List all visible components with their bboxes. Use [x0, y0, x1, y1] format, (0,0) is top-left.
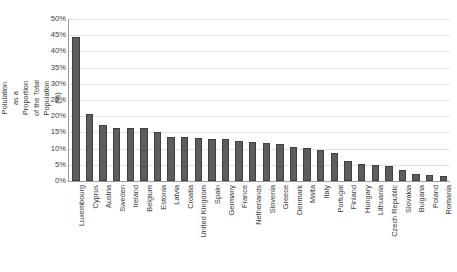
bar-slot [382, 19, 396, 181]
y-axis-tick-label: 25% [51, 96, 66, 104]
bar[interactable] [167, 137, 174, 181]
bar[interactable] [222, 139, 229, 181]
bar[interactable] [344, 161, 351, 181]
bar-slot [219, 19, 233, 181]
bar[interactable] [249, 142, 256, 181]
bar-slot [273, 19, 287, 181]
bar[interactable] [276, 144, 283, 181]
x-axis-tick-slot: Slovakia [395, 183, 409, 271]
bar-slot [178, 19, 192, 181]
bar[interactable] [181, 137, 188, 181]
bar[interactable] [358, 164, 365, 181]
bar[interactable] [263, 143, 270, 181]
bar-slot [368, 19, 382, 181]
x-axis-tick-slot: Estonia [150, 183, 164, 271]
x-axis-tick-slot: Finland [340, 183, 354, 271]
y-axis-tick-label: 45% [51, 31, 66, 39]
bar-slot [423, 19, 437, 181]
bar-slot [123, 19, 137, 181]
x-axis-tick-slot: Ireland [122, 183, 136, 271]
bar-slot [300, 19, 314, 181]
bar[interactable] [99, 125, 106, 181]
x-axis-tick-slot: Austria [95, 183, 109, 271]
y-axis-tick-label: 15% [51, 128, 66, 136]
bar[interactable] [385, 166, 392, 181]
bar-slot [246, 19, 260, 181]
bar-slot [205, 19, 219, 181]
bar[interactable] [140, 128, 147, 181]
x-axis-tick-slot: Netherlands [245, 183, 259, 271]
x-axis-tick-slot: Italy [313, 183, 327, 271]
y-axis-tick-label: 5% [55, 161, 66, 169]
x-axis-tick-slot: Portugal [327, 183, 341, 271]
y-axis-title: Foreign-Born Polulation as a Proportion … [0, 0, 42, 195]
x-axis-tick-slot: Hungary [354, 183, 368, 271]
bar[interactable] [440, 176, 447, 181]
bar[interactable] [208, 139, 215, 181]
x-axis-tick-slot: Croatia [177, 183, 191, 271]
bar[interactable] [331, 153, 338, 182]
x-axis-tick-slot: Spain [204, 183, 218, 271]
bar-slot [96, 19, 110, 181]
bar-slot [83, 19, 97, 181]
bar[interactable] [303, 148, 310, 181]
bar-slot [69, 19, 83, 181]
bars-layer [69, 19, 450, 181]
y-axis-tick-label: 50% [51, 15, 66, 23]
bar-slot [287, 19, 301, 181]
bar-slot [137, 19, 151, 181]
bar[interactable] [235, 141, 242, 181]
bar[interactable] [372, 165, 379, 181]
bar[interactable] [127, 128, 134, 181]
y-axis-tick-label: 20% [51, 112, 66, 120]
bar[interactable] [412, 174, 419, 181]
x-axis-tick-slot: France [231, 183, 245, 271]
x-axis-tick-slot: Malta [299, 183, 313, 271]
y-axis-tick-label: 0% [55, 177, 66, 185]
y-axis-tick-label: 35% [51, 64, 66, 72]
x-axis-tick-slot: Cyprus [82, 183, 96, 271]
bar[interactable] [154, 132, 161, 181]
bar-slot [436, 19, 450, 181]
bar-chart-figure: Foreign-Born Polulation as a Proportion … [0, 0, 457, 272]
x-axis-tick-slot: Denmark [286, 183, 300, 271]
bar-slot [355, 19, 369, 181]
bar-slot [341, 19, 355, 181]
x-axis-tick-slot: Latvia [163, 183, 177, 271]
bar-slot [110, 19, 124, 181]
bar-slot [314, 19, 328, 181]
bar-slot [164, 19, 178, 181]
x-axis-tick-slot: Romania [435, 183, 449, 271]
x-axis-tick-slot: United Kingdom [190, 183, 204, 271]
y-axis-tick-labels: 50%45%40%35%30%25%20%15%10%5%0% [40, 13, 66, 185]
x-axis-tick-slot: Czech Republic [381, 183, 395, 271]
bar[interactable] [399, 170, 406, 181]
bar-slot [409, 19, 423, 181]
x-axis-tick-slot: Sweden [109, 183, 123, 271]
x-axis-tick-slot: Lithuania [367, 183, 381, 271]
bar[interactable] [72, 37, 79, 181]
bar-slot [328, 19, 342, 181]
x-axis-tick-slot: Slovenia [259, 183, 273, 271]
x-axis-tick-slot: Luxembourg [68, 183, 82, 271]
plot-area [68, 19, 450, 182]
x-axis-tick-label: Romania [445, 185, 453, 215]
x-axis-tick-slot: Bulgaria [408, 183, 422, 271]
y-axis-tick-label: 10% [51, 145, 66, 153]
bar[interactable] [195, 138, 202, 181]
bar-slot [191, 19, 205, 181]
bar[interactable] [86, 114, 93, 181]
x-axis-tick-slot: Germany [218, 183, 232, 271]
bar[interactable] [113, 128, 120, 181]
x-axis-tick-slot: Poland [422, 183, 436, 271]
bar[interactable] [426, 175, 433, 181]
y-axis-tick-label: 40% [51, 47, 66, 55]
bar-slot [260, 19, 274, 181]
bar-slot [396, 19, 410, 181]
bar[interactable] [317, 150, 324, 181]
bar[interactable] [290, 147, 297, 181]
bar-slot [232, 19, 246, 181]
x-axis-tick-labels: LuxembourgCyprusAustriaSwedenIrelandBelg… [68, 183, 449, 271]
bar-slot [151, 19, 165, 181]
x-axis-tick-slot: Greece [272, 183, 286, 271]
